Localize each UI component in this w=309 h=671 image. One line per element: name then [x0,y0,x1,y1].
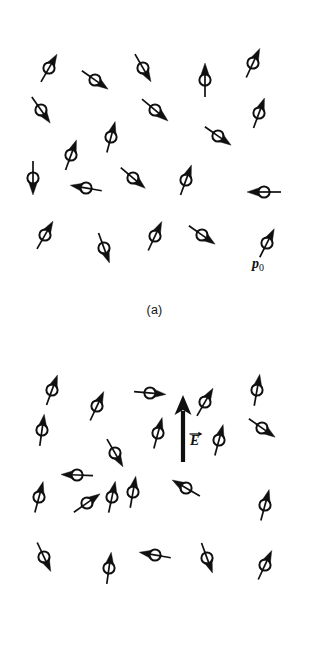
electric-field-label: E [189,433,199,448]
dipole [180,165,191,195]
dipole [135,54,151,82]
dipole [61,469,93,480]
dipole [253,98,264,128]
dipole [260,229,275,258]
dipole [213,425,224,456]
vector-overbar-tip [198,432,202,437]
dipole [259,490,270,521]
dipole [258,551,272,580]
dipole [189,226,215,244]
dipole [172,480,200,496]
dipole [65,140,76,170]
dipole [27,161,38,195]
dipole [201,543,212,573]
dipole [98,233,109,263]
panel-a-caption: (a) [0,303,309,317]
dipole [148,222,162,251]
dipole [103,552,114,584]
dipole-figure: p0 (a) E (b) [0,0,309,671]
dipole [37,221,53,249]
panel-b: E (b) [0,340,309,671]
dipole [33,482,44,513]
dipole [197,388,213,416]
dipole-moment-label: p0 [251,256,264,273]
dipole [107,439,123,467]
dipole [82,71,108,89]
dipole-shaft-through-ring [143,392,157,393]
dipole [74,494,100,512]
dipole [106,481,117,512]
dipole [90,392,104,421]
dipole [127,476,138,508]
dipole [105,122,116,153]
dipole [46,375,57,405]
dipole [37,543,51,572]
dipole [246,49,260,78]
dipole [142,99,168,121]
dipole [32,97,50,123]
panel-a-canvas: p0 [0,0,309,290]
dipole [199,63,210,97]
panel-a: p0 (a) [0,0,309,340]
dipole [36,414,47,446]
panel-b-canvas: E [0,340,309,630]
dipole [247,186,281,197]
dipole [121,168,146,189]
dipole [251,374,262,406]
dipole [249,419,275,437]
dipole [139,549,171,560]
dipole [70,182,102,193]
dipole [205,127,231,145]
dipole [134,387,166,398]
electric-field-arrow: E [175,395,203,462]
dipole [41,54,57,82]
dipole [152,418,163,449]
